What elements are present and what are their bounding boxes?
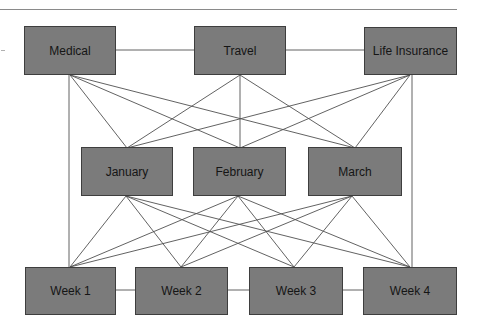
node-label: Life Insurance — [373, 44, 448, 58]
edge-mar-w1 — [70, 196, 352, 267]
edge-mar-w4 — [352, 196, 410, 267]
node-february: February — [193, 147, 286, 196]
node-label: January — [106, 165, 149, 179]
edge-life-jan — [127, 75, 410, 148]
edge-travel-jan — [127, 75, 240, 148]
edge-medical-feb — [70, 75, 240, 148]
node-label: Medical — [49, 44, 90, 58]
node-week-3: Week 3 — [249, 267, 343, 315]
node-label: Travel — [224, 44, 257, 58]
node-january: January — [81, 147, 173, 196]
node-medical: Medical — [24, 26, 116, 75]
edge-jan-w1 — [70, 196, 126, 267]
edge-feb-w4 — [238, 196, 410, 267]
node-label: Week 1 — [50, 284, 90, 298]
edge-medical-mar — [70, 75, 355, 148]
node-label: Week 4 — [390, 284, 430, 298]
node-label: February — [215, 165, 263, 179]
edge-life-mar — [355, 75, 410, 148]
node-march: March — [308, 147, 402, 196]
edge-travel-mar — [240, 75, 355, 148]
node-label: Week 2 — [161, 284, 201, 298]
node-label: Week 3 — [276, 284, 316, 298]
edge-medical-jan — [70, 75, 127, 148]
node-week-1: Week 1 — [25, 267, 116, 315]
node-label: March — [338, 165, 371, 179]
node-life-insurance: Life Insurance — [364, 27, 457, 75]
node-week-2: Week 2 — [135, 267, 228, 315]
edge-mar-w2 — [181, 196, 352, 267]
edge-mar-w3 — [294, 196, 352, 267]
node-travel: Travel — [194, 26, 286, 75]
edge-life-feb — [240, 75, 410, 148]
node-week-4: Week 4 — [363, 267, 457, 315]
